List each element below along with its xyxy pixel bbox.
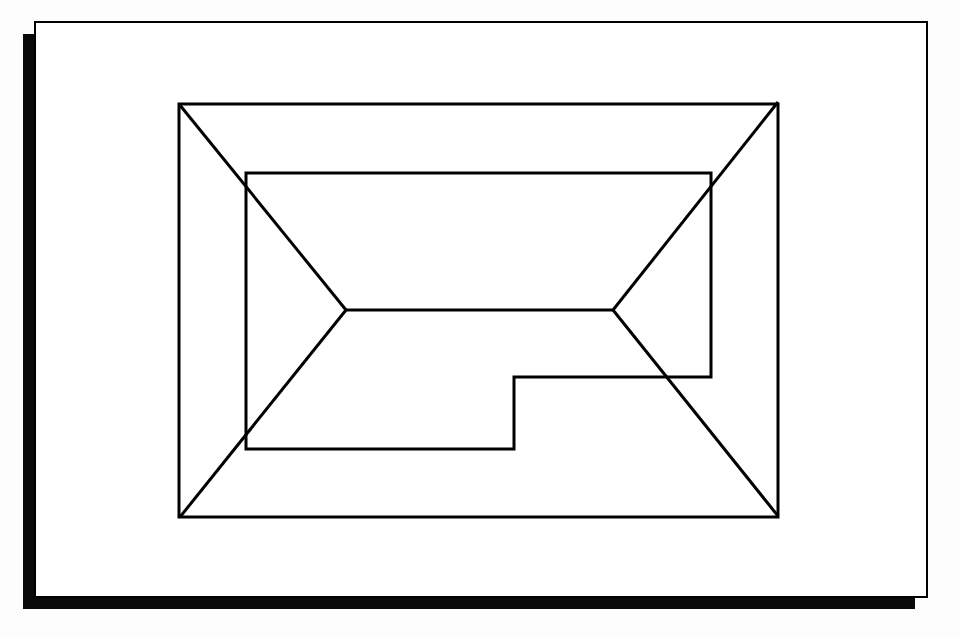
roof-plan-diagram bbox=[0, 0, 959, 637]
